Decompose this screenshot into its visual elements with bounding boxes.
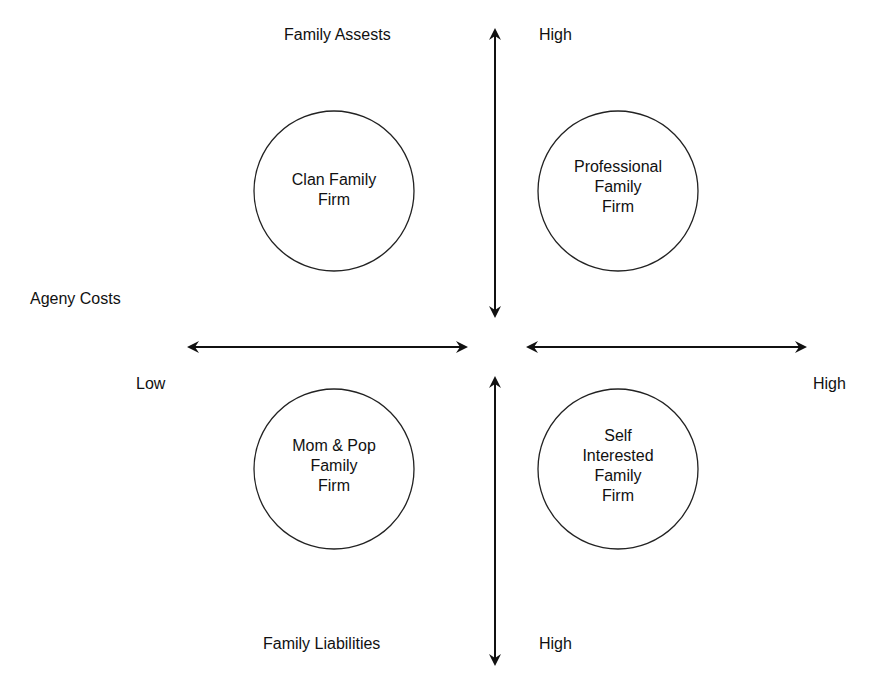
family-assets-label: Family Assests bbox=[284, 26, 391, 44]
quadrant-clan-family-firm: Clan Family Firm bbox=[259, 170, 409, 210]
quadrant-mom-pop-family-firm: Mom & Pop Family Firm bbox=[259, 436, 409, 496]
quadrant-line: Professional bbox=[543, 157, 693, 177]
quadrant-line: Clan Family bbox=[259, 170, 409, 190]
family-liabilities-label: Family Liabilities bbox=[263, 635, 380, 653]
quadrant-line: Firm bbox=[259, 476, 409, 496]
quadrant-professional-family-firm: Professional Family Firm bbox=[543, 157, 693, 217]
quadrant-line: Self bbox=[543, 426, 693, 446]
quadrant-line: Firm bbox=[543, 486, 693, 506]
quadrant-self-interested-family-firm: Self Interested Family Firm bbox=[543, 426, 693, 506]
agency-costs-label: Ageny Costs bbox=[30, 290, 121, 308]
vertical-top-high-label: High bbox=[539, 26, 572, 44]
quadrant-line: Firm bbox=[259, 190, 409, 210]
diagram-canvas bbox=[0, 0, 881, 692]
quadrant-line: Family bbox=[259, 456, 409, 476]
quadrant-line: Interested bbox=[543, 446, 693, 466]
horizontal-low-label: Low bbox=[136, 375, 165, 393]
quadrant-line: Family bbox=[543, 466, 693, 486]
quadrant-line: Firm bbox=[543, 197, 693, 217]
quadrant-line: Family bbox=[543, 177, 693, 197]
quadrant-line: Mom & Pop bbox=[259, 436, 409, 456]
vertical-bottom-high-label: High bbox=[539, 635, 572, 653]
horizontal-high-label: High bbox=[813, 375, 846, 393]
